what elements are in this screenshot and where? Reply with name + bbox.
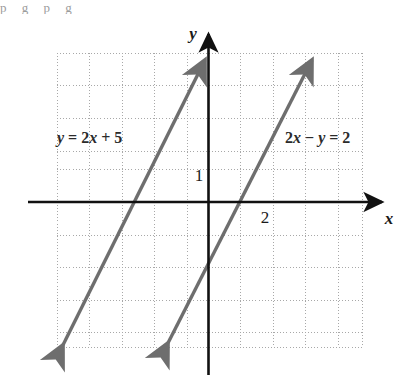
equation-right-var: x bbox=[292, 129, 301, 146]
equation-label-left: y = 2x + 5 bbox=[55, 129, 122, 147]
graph-figure: p g p g bbox=[0, 0, 411, 385]
partial-text-above-figure: p g p g bbox=[0, 0, 411, 14]
equation-left-coef: 2 bbox=[81, 129, 89, 146]
equation-right-coef: 2 bbox=[285, 129, 293, 146]
y-tick-label-1: 1 bbox=[195, 166, 204, 185]
equation-right-minus: − bbox=[305, 129, 314, 146]
coordinate-plane-svg: y x 1 2 y = 2x + 5 2x − y = 2 bbox=[0, 0, 411, 385]
equation-left-var: x bbox=[88, 129, 97, 146]
equation-left-eq: = bbox=[68, 129, 77, 146]
equation-right-eq: = bbox=[329, 129, 338, 146]
x-axis-label: x bbox=[384, 209, 394, 228]
equation-right-rhs: 2 bbox=[342, 129, 350, 146]
equation-left-plus: + bbox=[101, 129, 110, 146]
equation-left-const: 5 bbox=[114, 129, 122, 146]
y-axis-label: y bbox=[187, 24, 197, 43]
x-tick-label-2: 2 bbox=[261, 208, 270, 227]
equation-label-right: 2x − y = 2 bbox=[285, 129, 350, 147]
